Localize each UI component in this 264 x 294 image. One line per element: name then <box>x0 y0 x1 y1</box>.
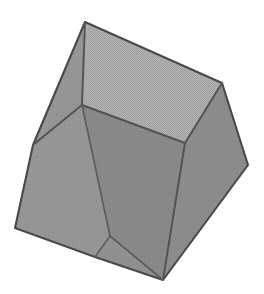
dither-overlay <box>0 0 264 294</box>
image-canvas <box>0 0 264 294</box>
cube-illustration <box>0 0 264 294</box>
